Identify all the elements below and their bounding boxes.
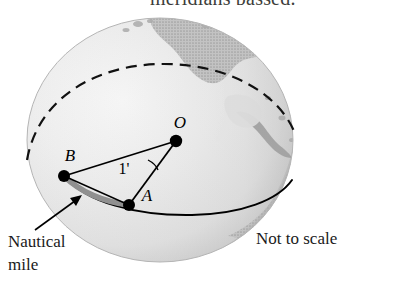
not-to-scale-label: Not to scale [256, 229, 337, 248]
nautical-mile-label-line1: Nautical [8, 232, 66, 251]
point-label-O: O [174, 113, 186, 132]
point-B-dot [58, 170, 70, 182]
point-label-A: A [141, 186, 153, 205]
point-O-dot [170, 135, 182, 147]
angle-label-one-minute: 1' [119, 160, 130, 177]
point-A-dot [123, 199, 135, 211]
nautical-mile-figure: meridians passed. [0, 0, 394, 283]
nautical-mile-label-line2: mile [8, 255, 38, 274]
point-label-B: B [65, 146, 76, 165]
globe-diagram-svg: O B A 1' Nautical mile Not to scale [0, 0, 394, 283]
